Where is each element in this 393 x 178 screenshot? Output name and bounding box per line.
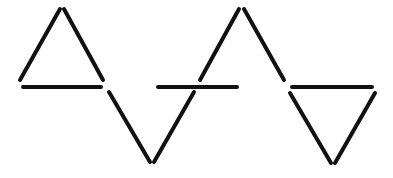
matchstick-v-right [154,92,194,162]
matchstick-t1-right [64,9,103,80]
matchstick-v-left [109,92,150,162]
matchstick-t2-left [200,9,239,80]
matchstick-t2-right [244,9,284,80]
matchstick-diagram [0,0,393,178]
matchstick-t3-right [335,93,375,163]
matchstick-t3-left [290,93,331,163]
matchstick-t1-left [20,9,60,80]
